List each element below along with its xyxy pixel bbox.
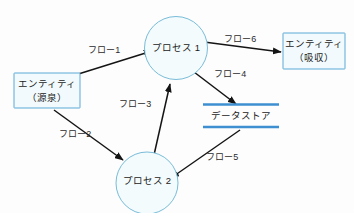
sink-entity-label-line2: （吸収） [294,52,334,63]
process-1-label: プロセス 1 [152,42,200,53]
flow-1-label: フロー1 [88,45,121,55]
source-entity-label-line2: （源泉） [27,92,67,103]
node-process-1[interactable]: プロセス 1 [145,17,208,80]
flow-6-label: フロー6 [224,34,257,44]
node-sink-entity[interactable]: エンティティ （吸収） [283,33,345,69]
flow-4-label: フロー4 [214,69,247,79]
flow-5-label: フロー5 [206,152,239,162]
node-process-2[interactable]: プロセス 2 [116,152,178,213]
dfd-canvas: エンティティ （源泉） エンティティ （吸収） プロセス 1 プロセス 2 デー… [0,0,354,213]
flow-3-arrow [154,84,170,155]
node-data-store[interactable]: データストア [203,105,279,128]
process-2-label: プロセス 2 [123,175,171,186]
sink-entity-label-line1: エンティティ [285,38,343,49]
node-source-entity[interactable]: エンティティ （源泉） [14,73,80,108]
dfd-diagram: エンティティ （源泉） エンティティ （吸収） プロセス 1 プロセス 2 デー… [0,0,354,213]
source-entity-label-line1: エンティティ [18,78,76,89]
flow-3-label: フロー3 [119,99,152,109]
flow-2-label: フロー2 [59,129,92,139]
data-store-label: データストア [211,110,271,121]
